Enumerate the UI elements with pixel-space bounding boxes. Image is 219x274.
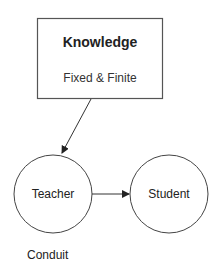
knowledge-to-teacher-arrow (62, 99, 91, 153)
student-label: Student (130, 187, 208, 201)
knowledge-title: Knowledge (37, 34, 163, 50)
teacher-label: Teacher (14, 187, 92, 201)
knowledge-box (38, 19, 163, 99)
knowledge-subtitle: Fixed & Finite (37, 71, 163, 85)
conduit-caption: Conduit (27, 248, 68, 262)
